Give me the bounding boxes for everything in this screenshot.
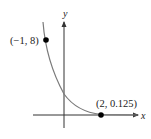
point-2-0125 — [98, 112, 104, 118]
point2-label: (2, 0.125) — [96, 98, 138, 110]
exponential-graph: y x (−1, 8) (2, 0.125) — [0, 0, 151, 139]
point-neg1-8 — [43, 37, 49, 43]
point1-label: (−1, 8) — [10, 35, 39, 47]
x-axis-label: x — [140, 110, 146, 121]
y-axis-label: y — [62, 8, 68, 19]
